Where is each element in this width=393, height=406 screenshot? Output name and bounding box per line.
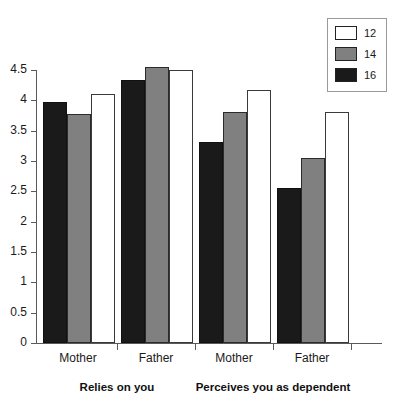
bar-12-father-3 bbox=[325, 112, 349, 343]
legend-label-12: 12 bbox=[364, 28, 376, 39]
group-label-0: Relies on you bbox=[39, 380, 195, 394]
bar-12-mother-2 bbox=[247, 90, 271, 343]
y-tick: 1 bbox=[31, 282, 36, 283]
x-tick bbox=[351, 343, 352, 350]
legend-entry-14: 14 bbox=[335, 46, 376, 62]
y-tick-label: 1.5 bbox=[10, 245, 27, 258]
category-label-2: Mother bbox=[195, 351, 273, 365]
bar-12-father-1 bbox=[169, 70, 193, 343]
bar-12-mother-0 bbox=[91, 94, 115, 343]
bar-16-mother-2 bbox=[199, 142, 223, 343]
bar-14-mother-2 bbox=[223, 112, 247, 343]
y-tick: 3 bbox=[31, 161, 36, 162]
x-tick bbox=[273, 343, 274, 350]
y-tick: 3.5 bbox=[31, 131, 36, 132]
legend-entry-12: 12 bbox=[335, 25, 376, 41]
y-tick: 0.5 bbox=[31, 313, 36, 314]
y-tick-label: 0.5 bbox=[10, 306, 27, 319]
y-tick-label: 2 bbox=[20, 215, 27, 228]
x-tick bbox=[195, 343, 196, 350]
bar-14-father-3 bbox=[301, 158, 325, 343]
legend-label-14: 14 bbox=[364, 49, 376, 60]
category-label-3: Father bbox=[273, 351, 351, 365]
y-tick: 4.5 bbox=[31, 70, 36, 71]
bar-chart: 12 14 16 4.543.532.521.510.50 MotherFath… bbox=[0, 0, 393, 406]
y-tick: 1.5 bbox=[31, 252, 36, 253]
y-tick-label: 0 bbox=[20, 336, 27, 349]
y-tick-label: 3 bbox=[20, 154, 27, 167]
category-label-0: Mother bbox=[39, 351, 117, 365]
y-tick-label: 3.5 bbox=[10, 124, 27, 137]
y-tick: 0 bbox=[31, 343, 36, 344]
y-axis-line bbox=[36, 70, 37, 344]
y-tick-label: 4.5 bbox=[10, 63, 27, 76]
bar-16-father-3 bbox=[277, 188, 301, 343]
y-tick-label: 2.5 bbox=[10, 184, 27, 197]
legend-swatch-12 bbox=[335, 26, 357, 40]
legend-swatch-14 bbox=[335, 47, 357, 61]
y-tick: 2.5 bbox=[31, 191, 36, 192]
x-axis-line bbox=[36, 343, 382, 344]
group-label-1: Perceives you as dependent bbox=[195, 380, 351, 394]
x-tick bbox=[117, 343, 118, 350]
plot-area: 4.543.532.521.510.50 bbox=[36, 70, 382, 344]
y-tick: 2 bbox=[31, 222, 36, 223]
category-label-1: Father bbox=[117, 351, 195, 365]
bar-14-mother-0 bbox=[67, 114, 91, 343]
y-tick: 4 bbox=[31, 100, 36, 101]
bar-16-mother-0 bbox=[43, 102, 67, 343]
y-tick-label: 1 bbox=[20, 275, 27, 288]
y-tick-label: 4 bbox=[20, 93, 27, 106]
bar-14-father-1 bbox=[145, 67, 169, 343]
bar-16-father-1 bbox=[121, 80, 145, 343]
